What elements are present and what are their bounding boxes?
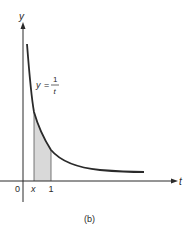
equation-numerator: 1 [53,75,58,84]
tick-label-one: 1 [49,184,54,194]
tick-label-zero: 0 [15,184,20,194]
equation-denominator: t [54,87,57,96]
y-axis-arrow-icon [21,22,26,29]
equation-equals: = [44,80,49,90]
t-axis-arrow-icon [171,179,178,184]
equation-label: y = 1 t [35,75,59,96]
t-axis-label: t [179,176,183,187]
tick-label-x: x [30,184,36,194]
equation-lhs: y [35,80,41,90]
y-axis-label: y [18,11,25,22]
hyperbola-area-diagram: y t 0 x 1 y = 1 t (b) [0,0,185,230]
figure-caption: (b) [84,214,95,224]
